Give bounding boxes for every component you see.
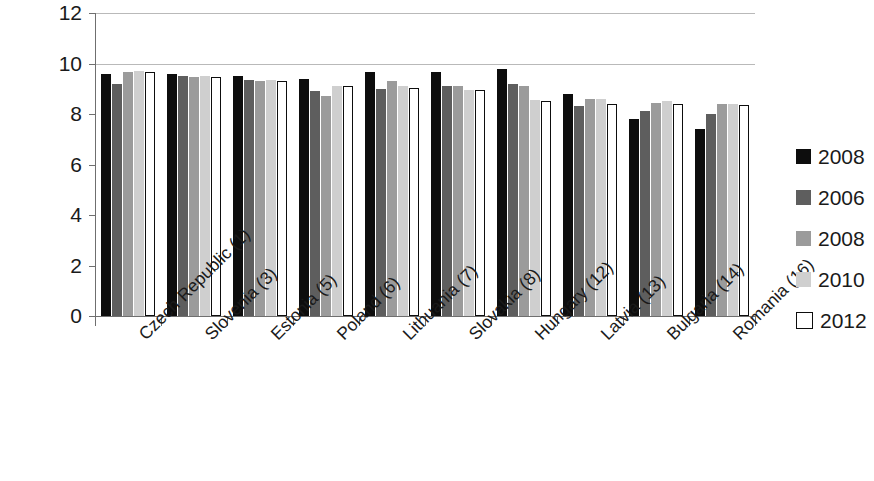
legend-label: 2006 xyxy=(818,187,865,208)
bar xyxy=(519,86,529,316)
bar-group xyxy=(557,13,623,316)
legend-swatch xyxy=(796,231,811,246)
bar xyxy=(387,81,397,316)
bar xyxy=(695,129,705,316)
bar xyxy=(563,94,573,316)
bar xyxy=(706,114,716,316)
y-axis-tick-label: 6 xyxy=(42,154,82,175)
bar-group xyxy=(623,13,689,316)
x-axis-tick xyxy=(95,317,96,326)
bar xyxy=(530,100,540,316)
bar xyxy=(475,90,485,316)
x-axis-tick xyxy=(425,317,426,326)
bar-group xyxy=(227,13,293,316)
bar xyxy=(376,89,386,316)
bar xyxy=(255,81,265,316)
bar-chart: 024681012 Czech Republic (1)Slovenia (3)… xyxy=(0,0,874,481)
bar xyxy=(123,72,133,316)
bar xyxy=(299,79,309,316)
bar xyxy=(739,105,749,316)
bar xyxy=(310,91,320,316)
bar xyxy=(112,84,122,316)
bar xyxy=(409,88,419,317)
bar xyxy=(607,104,617,316)
bar xyxy=(431,72,441,316)
bar xyxy=(244,80,254,316)
legend-item: 2006 xyxy=(796,177,874,218)
bar xyxy=(442,86,452,316)
bar xyxy=(717,104,727,316)
y-axis-labels: 024681012 xyxy=(30,0,82,340)
y-axis-tick xyxy=(89,165,95,166)
bar-group xyxy=(491,13,557,316)
x-axis-tick xyxy=(359,317,360,326)
bar xyxy=(464,90,474,316)
bar xyxy=(651,103,661,316)
legend-label: 2008 xyxy=(818,146,865,167)
bar xyxy=(728,104,738,316)
bar xyxy=(178,76,188,316)
bar xyxy=(211,77,221,316)
bar-group xyxy=(359,13,425,316)
legend-label: 2012 xyxy=(820,310,867,331)
bar xyxy=(508,84,518,316)
x-axis-tick xyxy=(689,317,690,326)
bar xyxy=(277,81,287,316)
y-axis-tick xyxy=(89,215,95,216)
bar xyxy=(453,86,463,316)
bar xyxy=(167,74,177,316)
legend-item: 2008 xyxy=(796,136,874,177)
bar xyxy=(101,74,111,316)
y-axis-tick xyxy=(89,64,95,65)
bar xyxy=(640,111,650,316)
legend-swatch xyxy=(796,312,813,329)
y-axis-tick xyxy=(89,266,95,267)
y-axis-tick xyxy=(89,114,95,115)
bar xyxy=(332,86,342,316)
bar xyxy=(398,86,408,316)
x-axis-tick xyxy=(557,317,558,326)
y-axis-tick-label: 4 xyxy=(42,204,82,225)
y-axis-line xyxy=(95,13,96,317)
bar xyxy=(365,72,375,316)
bar xyxy=(574,106,584,316)
y-axis-tick xyxy=(89,13,95,14)
bar xyxy=(497,69,507,316)
x-axis-tick xyxy=(755,317,756,326)
legend-item: 2012 xyxy=(796,300,874,341)
bar xyxy=(541,101,551,316)
x-axis-tick xyxy=(293,317,294,326)
y-axis-tick-label: 0 xyxy=(42,305,82,326)
legend-label: 2008 xyxy=(818,228,865,249)
x-axis-tick xyxy=(491,317,492,326)
bar-group xyxy=(425,13,491,316)
bar xyxy=(596,99,606,316)
bar-group xyxy=(293,13,359,316)
y-axis-tick-label: 8 xyxy=(42,103,82,124)
plot-area xyxy=(95,13,755,316)
legend-item: 2010 xyxy=(796,259,874,300)
bar xyxy=(189,77,199,316)
bar xyxy=(134,71,144,316)
bar-group xyxy=(689,13,755,316)
bar xyxy=(629,119,639,316)
x-axis-tick xyxy=(623,317,624,326)
y-axis-tick-label: 10 xyxy=(42,53,82,74)
y-axis-tick-label: 12 xyxy=(42,2,82,23)
legend-swatch xyxy=(796,272,811,287)
bar xyxy=(343,86,353,316)
bar xyxy=(145,72,155,316)
legend-swatch xyxy=(796,149,811,164)
x-axis-tick xyxy=(227,317,228,326)
bar xyxy=(662,101,672,316)
bar xyxy=(585,99,595,316)
y-axis-tick-label: 2 xyxy=(42,255,82,276)
bar xyxy=(266,80,276,316)
x-axis-tick xyxy=(161,317,162,326)
bar-group xyxy=(161,13,227,316)
bar xyxy=(321,96,331,316)
bar xyxy=(233,76,243,316)
legend-item: 2008 xyxy=(796,218,874,259)
bar xyxy=(200,76,210,316)
bar-group xyxy=(95,13,161,316)
